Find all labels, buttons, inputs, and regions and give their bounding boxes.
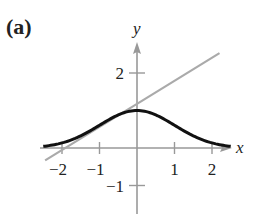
x-tick-label: −2 <box>49 160 67 179</box>
y-tick-label: −1 <box>106 177 124 196</box>
tangent-line <box>45 53 219 160</box>
x-tick-label: 1 <box>170 160 179 179</box>
y-tick-label: 2 <box>116 64 125 83</box>
x-tick-label: −1 <box>86 160 104 179</box>
labels: −2−1122−1xy <box>49 19 244 196</box>
chart: −2−1122−1xy <box>0 0 257 214</box>
x-tick-label: 2 <box>208 160 217 179</box>
axes <box>40 42 232 214</box>
x-axis-label: x <box>235 138 244 157</box>
y-axis-label: y <box>131 19 141 38</box>
